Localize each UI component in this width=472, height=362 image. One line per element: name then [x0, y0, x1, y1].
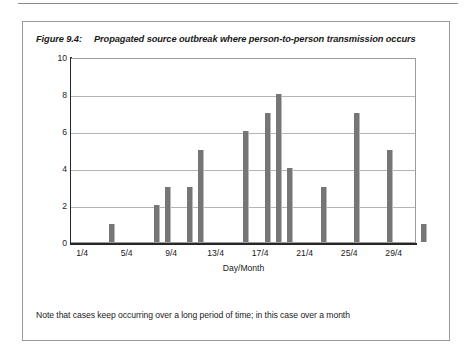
bar [243, 131, 249, 242]
bar [287, 168, 293, 242]
bar [276, 94, 282, 242]
figure-note: Note that cases keep occurring over a lo… [36, 310, 350, 320]
bar [421, 224, 427, 243]
x-axis-tick-label: 1/4 [76, 248, 88, 258]
figure-caption: Figure 9.4: Propagated source outbreak w… [36, 34, 416, 44]
x-axis-tick-label: 29/4 [385, 248, 402, 258]
x-axis-tick-label: 25/4 [341, 248, 358, 258]
bar [187, 187, 193, 243]
x-axis-tick-label: 21/4 [296, 248, 313, 258]
bar [165, 187, 171, 243]
figure-caption-text: Propagated source outbreak where person-… [94, 34, 416, 44]
page-top-rule [18, 3, 458, 4]
figure-caption-number: Figure 9.4: [36, 34, 94, 44]
y-axis-tick-label: 2 [45, 201, 67, 211]
x-axis-label: Day/Month [71, 263, 416, 273]
y-axis-ticks: 0246810 [41, 58, 67, 298]
y-axis-tick-label: 8 [45, 90, 67, 100]
x-axis-tick-label: 9/4 [165, 248, 177, 258]
bar [387, 150, 393, 243]
y-axis-tick-label: 4 [45, 164, 67, 174]
y-axis-tick-label: 0 [45, 238, 67, 248]
x-axis-tick-label: 17/4 [252, 248, 269, 258]
bar [265, 113, 271, 243]
bar [198, 150, 204, 243]
gridline [71, 96, 415, 97]
epidemic-curve-chart: Number of cases 0246810 Day/Month 1/45/4… [41, 58, 439, 298]
plot-area [71, 58, 416, 243]
figure-container: Figure 9.4: Propagated source outbreak w… [22, 21, 450, 341]
x-axis-line [70, 243, 417, 245]
bar [154, 205, 160, 242]
bar [109, 224, 115, 243]
y-axis-tick-label: 6 [45, 127, 67, 137]
y-axis-tick-label: 10 [45, 53, 67, 63]
bar [321, 187, 327, 243]
x-axis-tick-label: 13/4 [207, 248, 224, 258]
bar [354, 113, 360, 243]
x-axis-tick-label: 5/4 [121, 248, 133, 258]
